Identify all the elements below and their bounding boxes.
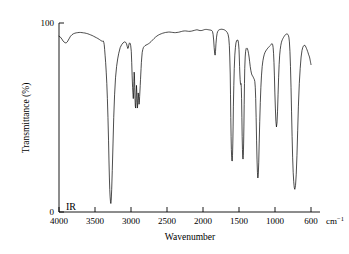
plot-axes: [59, 23, 320, 212]
x-tick-label-3000: 3000: [122, 216, 141, 226]
x-tick-label-600: 600: [304, 216, 318, 226]
x-axis-tick-labels: 4000350030002500200015001000600: [50, 216, 318, 226]
spectrum-trace: [59, 29, 311, 203]
unit-base: cm: [326, 216, 337, 226]
x-tick-label-2500: 2500: [158, 216, 177, 226]
x-tick-label-2000: 2000: [194, 216, 213, 226]
x-axis-title: Wavenumber: [165, 232, 216, 242]
y-axis-title: Transmittance (%): [21, 83, 32, 154]
axis-frame: [59, 23, 320, 212]
x-tick-label-4000: 4000: [50, 216, 69, 226]
x-tick-label-1500: 1500: [230, 216, 249, 226]
axis-tick-marks: [59, 207, 311, 212]
unit-exponent: −1: [337, 215, 344, 222]
x-tick-label-3500: 3500: [86, 216, 105, 226]
y-tick-label-0: 0: [50, 207, 55, 217]
x-axis-unit-label: cm−1: [326, 215, 344, 227]
x-tick-label-1000: 1000: [266, 216, 285, 226]
spectrum-svg: 4000350030002500200015001000600 100 0 Tr…: [0, 0, 349, 254]
ir-spectrum-figure: 4000350030002500200015001000600 100 0 Tr…: [0, 0, 349, 254]
ir-corner-label: IR: [66, 201, 76, 212]
svg-text:cm−1: cm−1: [326, 215, 344, 227]
y-tick-label-100: 100: [41, 18, 55, 28]
